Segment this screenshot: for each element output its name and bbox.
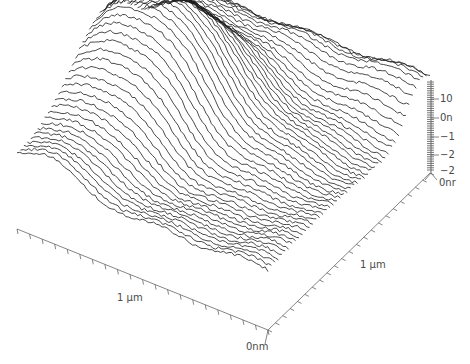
axis-line [415,187,419,189]
axis-line [312,287,316,289]
z-tick-label-1: 0n [440,113,453,123]
z-tick-label-0: 10 [440,94,453,104]
surface-trace [79,39,330,207]
y-axis-label: 1 µm [360,260,386,270]
z-tick-label-4: −2 [440,166,455,176]
axis-line [320,280,324,282]
axis-line [378,223,382,225]
x-axis-origin-label: 0nm [246,342,268,352]
axis-line [356,244,360,246]
axis-line [401,202,405,204]
axis-line [386,216,390,218]
surface-plot [0,0,470,364]
axis-line [297,301,301,303]
axis-line [283,316,287,318]
surface-trace [55,98,306,230]
axis-line [275,323,279,325]
axis-line [349,252,353,254]
axis-line [431,173,437,180]
surface-trace [162,0,413,95]
axis-line [393,209,397,211]
surface-trace [158,0,409,105]
x-axis-label: 1 µm [117,293,143,303]
axis-line [423,180,427,182]
surface-trace [48,111,299,238]
axes [17,80,439,344]
axis-line [327,273,331,275]
z-axis-origin-label: 0nr [439,178,456,188]
z-tick-label-2: −1 [440,132,455,142]
axis-line [408,194,412,196]
axis-line [342,259,346,261]
z-tick-label-3: −2 [440,150,455,160]
axis-line [371,230,375,232]
axis-line [364,237,368,239]
surface-trace [165,0,416,88]
axis-line [334,266,338,268]
surface-traces [17,0,430,272]
surface-trace [34,132,285,251]
axis-line [305,294,309,296]
surface-trace [86,22,337,201]
axis-line [290,309,294,311]
surface-trace [176,0,427,76]
